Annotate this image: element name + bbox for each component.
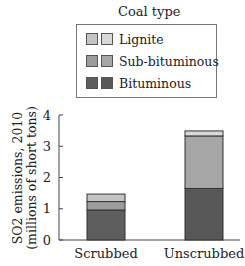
y-axis-label: SO2 emissions, 2010(millions of short to…	[10, 106, 39, 250]
y-tick-label: 1	[43, 201, 51, 216]
bar-segment-bituminous	[185, 188, 223, 240]
bar-segment-sub-bituminous	[185, 136, 223, 189]
bar-segment-lignite	[87, 194, 125, 202]
bar-segment-sub-bituminous	[87, 202, 125, 210]
bar-segment-lignite	[185, 131, 223, 136]
bar-segment-bituminous	[87, 210, 125, 240]
y-tick-label: 3	[43, 139, 51, 154]
y-tick-label: 2	[43, 170, 51, 185]
y-tick-label: 0	[43, 233, 51, 248]
stacked-bar-chart: 01234ScrubbedUnscrubbedSO2 emissions, 20…	[0, 0, 245, 266]
x-tick-label: Scrubbed	[74, 246, 137, 261]
y-tick-label: 4	[43, 108, 51, 123]
x-tick-label: Unscrubbed	[164, 246, 245, 261]
